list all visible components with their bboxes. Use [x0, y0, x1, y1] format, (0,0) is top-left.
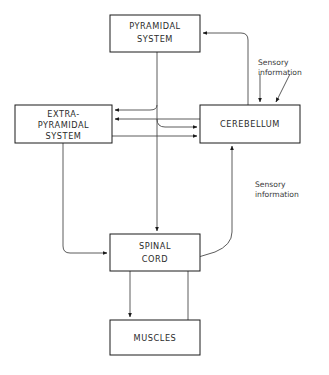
edge-pyramidal-to-extrapyramidal — [115, 105, 157, 110]
edge-sensory-input-right — [276, 74, 290, 102]
annotation-sensory-information-middle: Sensory information — [255, 180, 299, 199]
edge-cerebellum-to-pyramidal — [203, 33, 248, 105]
pyramidal-system-label-line2: SYSTEM — [137, 34, 173, 44]
node-muscles[interactable]: MUSCLES — [110, 320, 200, 355]
sensory-top-line1: Sensory — [258, 58, 289, 67]
spinal-cord-label-line2: CORD — [142, 254, 168, 264]
extrapyramidal-system-label-line2: PYRAMIDAL — [38, 120, 89, 130]
sensory-middle-line2: information — [255, 190, 299, 199]
node-spinal-cord[interactable]: SPINAL CORD — [110, 234, 200, 271]
edge-extrapyramidal-to-spinalcord — [63, 143, 107, 253]
extrapyramidal-system-label-line3: SYSTEM — [46, 131, 82, 141]
cerebellum-label: CEREBELLUM — [220, 119, 280, 129]
node-extrapyramidal-system[interactable]: EXTRA- PYRAMIDAL SYSTEM — [15, 105, 112, 143]
spinal-cord-label-line1: SPINAL — [139, 241, 171, 251]
pyramidal-system-label-line1: PYRAMIDAL — [129, 21, 180, 31]
sensory-top-line2: information — [258, 68, 302, 77]
node-pyramidal-system[interactable]: PYRAMIDAL SYSTEM — [110, 15, 200, 52]
muscles-label: MUSCLES — [134, 333, 177, 343]
flow-diagram: PYRAMIDAL SYSTEM EXTRA- PYRAMIDAL SYSTEM… — [0, 0, 329, 375]
annotation-sensory-information-top: Sensory information — [258, 58, 302, 77]
node-cerebellum[interactable]: CEREBELLUM — [200, 105, 300, 143]
extrapyramidal-system-label-line1: EXTRA- — [47, 109, 80, 119]
edge-pyramidal-to-cerebellum — [157, 119, 197, 127]
diagram-canvas: PYRAMIDAL SYSTEM EXTRA- PYRAMIDAL SYSTEM… — [0, 0, 329, 375]
sensory-middle-line1: Sensory — [255, 180, 286, 189]
